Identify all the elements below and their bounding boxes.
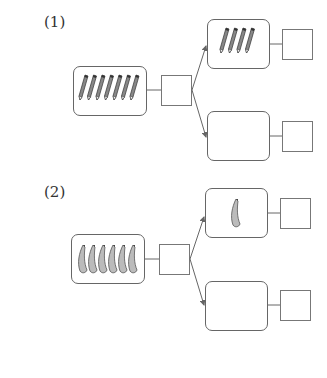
connector-lines: [0, 0, 327, 378]
